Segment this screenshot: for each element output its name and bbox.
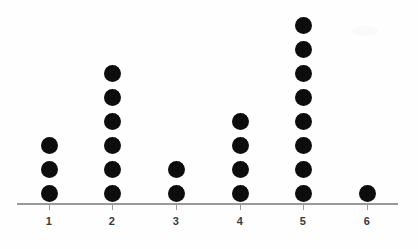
tick-label-1: 1 [37,215,61,227]
dot-3-1 [168,185,185,202]
dot-2-2 [104,161,121,178]
tick-label-4: 4 [228,215,252,227]
dot-1-1 [41,185,58,202]
dot-2-1 [104,185,121,202]
dot-5-6 [295,65,312,82]
tick-mark-4 [240,205,241,210]
x-axis-line [17,203,398,205]
dot-4-3 [232,137,249,154]
tick-mark-2 [112,205,113,210]
dot-plot-figure: 123456 [0,0,418,249]
tick-mark-5 [303,205,304,210]
dot-4-4 [232,113,249,130]
dot-5-7 [295,41,312,58]
dot-5-8 [295,17,312,34]
tick-mark-1 [49,205,50,210]
dot-5-4 [295,113,312,130]
dot-5-5 [295,89,312,106]
dot-5-1 [295,185,312,202]
dot-1-2 [41,161,58,178]
tick-mark-6 [367,205,368,210]
dot-2-4 [104,113,121,130]
dot-4-2 [232,161,249,178]
dot-4-1 [232,185,249,202]
dot-3-2 [168,161,185,178]
tick-label-3: 3 [164,215,188,227]
dot-2-5 [104,89,121,106]
tick-label-6: 6 [355,215,379,227]
dot-1-3 [41,137,58,154]
dot-2-3 [104,137,121,154]
dot-2-6 [104,65,121,82]
tick-label-2: 2 [100,215,124,227]
tick-label-5: 5 [291,215,315,227]
dot-5-2 [295,161,312,178]
background-artifact [352,26,378,36]
dot-5-3 [295,137,312,154]
tick-mark-3 [176,205,177,210]
dot-6-1 [359,185,376,202]
